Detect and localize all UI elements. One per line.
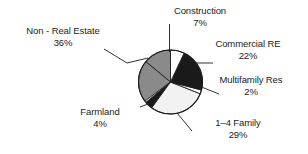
pie-label-1-4-family-name: 1–4 Family — [192, 117, 284, 129]
pie-label-1-4-family: 1–4 Family 29% — [192, 117, 284, 140]
pie-label-commercial-re: Commercial RE 22% — [196, 38, 300, 61]
pie-label-multifamily-res-name: Multifamily Res — [199, 74, 303, 86]
pie-label-non-real-estate-percent: 36% — [7, 37, 119, 49]
pie-label-non-real-estate: Non - Real Estate 36% — [7, 25, 119, 48]
pie-label-farmland-name: Farmland — [56, 106, 144, 118]
pie-label-construction: Construction 7% — [152, 5, 248, 28]
pie-label-commercial-re-name: Commercial RE — [196, 38, 300, 50]
leader-line-1-4-family — [177, 113, 192, 131]
pie-label-farmland: Farmland 4% — [56, 106, 144, 129]
pie-label-construction-percent: 7% — [152, 17, 248, 29]
pie-label-farmland-percent: 4% — [56, 118, 144, 130]
leader-line-non-real-estate — [104, 49, 148, 63]
pie-label-multifamily-res-percent: 2% — [199, 86, 303, 98]
pie-chart: Non - Real Estate 36% Construction 7% Co… — [0, 0, 308, 154]
pie-label-non-real-estate-name: Non - Real Estate — [7, 25, 119, 37]
pie-label-1-4-family-percent: 29% — [192, 129, 284, 141]
pie-label-commercial-re-percent: 22% — [196, 50, 300, 62]
pie-label-construction-name: Construction — [152, 5, 248, 17]
pie-label-multifamily-res: Multifamily Res 2% — [199, 74, 303, 97]
